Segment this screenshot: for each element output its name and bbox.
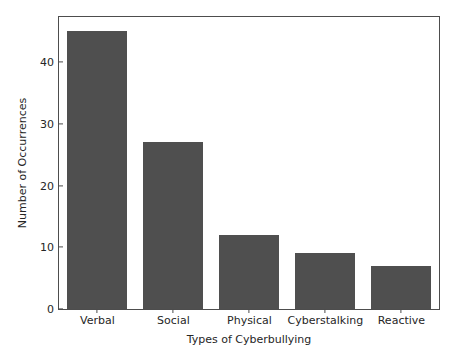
x-axis-tick: Verbal bbox=[96, 309, 97, 313]
y-axis-tick: 10 bbox=[59, 247, 63, 248]
x-axis-tick-label: Social bbox=[157, 314, 190, 327]
bar bbox=[219, 235, 280, 309]
y-axis-tick-label: 30 bbox=[40, 118, 54, 131]
bar bbox=[143, 142, 204, 309]
x-axis-label: Types of Cyberbullying bbox=[58, 333, 440, 346]
x-axis-tick: Social bbox=[172, 309, 173, 313]
y-axis-tick: 0 bbox=[59, 308, 63, 309]
x-axis-tick: Physical bbox=[248, 309, 249, 313]
y-axis-tick-label: 10 bbox=[40, 241, 54, 254]
bar bbox=[295, 253, 356, 309]
x-axis-tick-label: Physical bbox=[227, 314, 272, 327]
y-axis-tick: 30 bbox=[59, 123, 63, 124]
y-axis-tick: 40 bbox=[59, 61, 63, 62]
y-axis-tick-label: 0 bbox=[47, 303, 54, 316]
bar-chart-figure: Number of Occurrences 010203040VerbalSoc… bbox=[0, 0, 457, 363]
plot-area: 010203040VerbalSocialPhysicalCyberstalki… bbox=[58, 16, 440, 310]
y-axis-tick: 20 bbox=[59, 185, 63, 186]
x-axis-tick-label: Verbal bbox=[80, 314, 115, 327]
y-axis-tick-label: 40 bbox=[40, 56, 54, 69]
bar bbox=[371, 266, 432, 309]
x-axis-tick-label: Reactive bbox=[378, 314, 425, 327]
bar bbox=[67, 31, 128, 309]
y-axis-label: Number of Occurrences bbox=[16, 16, 30, 310]
x-axis-tick-label: Cyberstalking bbox=[288, 314, 364, 327]
y-axis-tick-label: 20 bbox=[40, 179, 54, 192]
x-axis-tick: Reactive bbox=[400, 309, 401, 313]
x-axis-tick: Cyberstalking bbox=[324, 309, 325, 313]
